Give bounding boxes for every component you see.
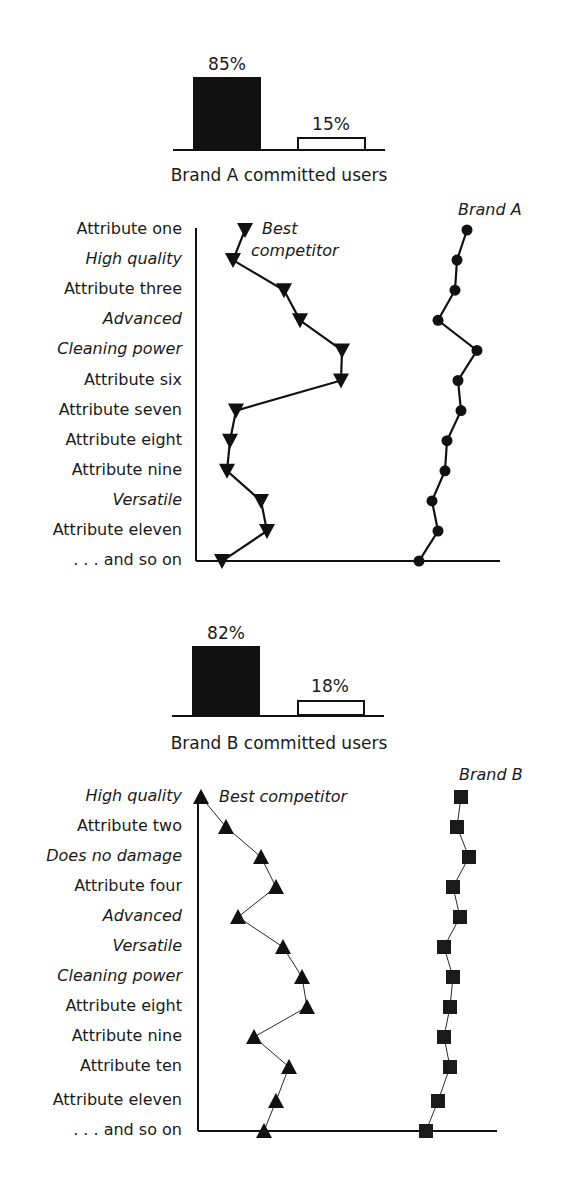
square-marker-icon <box>453 910 467 924</box>
square-marker-icon <box>446 880 460 894</box>
triangle-up-marker-icon <box>253 849 269 864</box>
square-marker-icon <box>446 970 460 984</box>
triangle-up-marker-icon <box>275 939 291 954</box>
triangle-up-marker-icon <box>299 999 315 1014</box>
square-marker-icon <box>443 1000 457 1014</box>
triangle-up-marker-icon <box>294 969 310 984</box>
brand-line <box>426 797 469 1131</box>
square-marker-icon <box>419 1124 433 1138</box>
square-marker-icon <box>437 1030 451 1044</box>
square-marker-icon <box>450 820 464 834</box>
square-marker-icon <box>443 1060 457 1074</box>
triangle-up-marker-icon <box>268 879 284 894</box>
square-marker-icon <box>462 850 476 864</box>
triangle-up-marker-icon <box>218 819 234 834</box>
triangle-up-marker-icon <box>193 789 209 804</box>
triangle-up-marker-icon <box>281 1059 297 1074</box>
triangle-up-marker-icon <box>230 909 246 924</box>
brand-b-profile-plot <box>0 0 568 1187</box>
square-marker-icon <box>431 1094 445 1108</box>
competitor-line <box>201 797 307 1131</box>
triangle-up-marker-icon <box>268 1093 284 1108</box>
triangle-up-marker-icon <box>246 1029 262 1044</box>
square-marker-icon <box>437 940 451 954</box>
square-marker-icon <box>454 790 468 804</box>
